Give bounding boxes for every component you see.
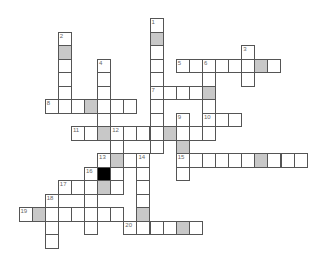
letter-cell[interactable] <box>215 113 229 128</box>
letter-cell[interactable] <box>228 153 242 168</box>
letter-cell[interactable] <box>123 99 137 114</box>
letter-cell[interactable]: 1 <box>150 18 164 33</box>
letter-cell[interactable] <box>97 72 111 87</box>
letter-cell[interactable] <box>189 221 203 236</box>
letter-cell[interactable] <box>202 99 216 114</box>
letter-cell[interactable]: 6 <box>202 59 216 74</box>
letter-cell[interactable] <box>136 167 150 182</box>
letter-cell[interactable] <box>110 167 124 182</box>
letter-cell[interactable]: 10 <box>202 113 216 128</box>
letter-cell[interactable] <box>254 153 268 168</box>
letter-cell[interactable] <box>58 72 72 87</box>
letter-cell[interactable] <box>110 180 124 195</box>
letter-cell[interactable] <box>97 126 111 141</box>
letter-cell[interactable]: 19 <box>19 207 33 222</box>
letter-cell[interactable] <box>241 153 255 168</box>
letter-cell[interactable] <box>84 221 98 236</box>
letter-cell[interactable] <box>58 207 72 222</box>
letter-cell[interactable] <box>110 153 124 168</box>
letter-cell[interactable] <box>176 126 190 141</box>
letter-cell[interactable] <box>97 113 111 128</box>
letter-cell[interactable] <box>71 99 85 114</box>
letter-cell[interactable] <box>45 207 59 222</box>
letter-cell[interactable]: 9 <box>176 113 190 128</box>
letter-cell[interactable] <box>228 59 242 74</box>
letter-cell[interactable] <box>202 153 216 168</box>
letter-cell[interactable] <box>176 167 190 182</box>
letter-cell[interactable] <box>150 221 164 236</box>
letter-cell[interactable] <box>110 207 124 222</box>
letter-cell[interactable] <box>136 194 150 209</box>
letter-cell[interactable] <box>123 153 137 168</box>
letter-cell[interactable] <box>189 126 203 141</box>
letter-cell[interactable] <box>58 86 72 101</box>
letter-cell[interactable] <box>176 221 190 236</box>
letter-cell[interactable]: 16 <box>84 167 98 182</box>
letter-cell[interactable] <box>45 234 59 249</box>
letter-cell[interactable] <box>136 180 150 195</box>
letter-cell[interactable] <box>150 45 164 60</box>
letter-cell[interactable] <box>202 86 216 101</box>
letter-cell[interactable] <box>58 99 72 114</box>
letter-cell[interactable] <box>84 99 98 114</box>
letter-cell[interactable] <box>84 194 98 209</box>
letter-cell[interactable]: 4 <box>97 59 111 74</box>
letter-cell[interactable] <box>110 140 124 155</box>
letter-cell[interactable]: 5 <box>176 59 190 74</box>
letter-cell[interactable]: 13 <box>97 153 111 168</box>
letter-cell[interactable] <box>150 126 164 141</box>
letter-cell[interactable] <box>163 221 177 236</box>
letter-cell[interactable] <box>84 180 98 195</box>
letter-cell[interactable]: 3 <box>241 45 255 60</box>
letter-cell[interactable] <box>294 153 308 168</box>
letter-cell[interactable] <box>136 126 150 141</box>
letter-cell[interactable]: 18 <box>45 194 59 209</box>
letter-cell[interactable]: 15 <box>176 153 190 168</box>
letter-cell[interactable] <box>189 153 203 168</box>
letter-cell[interactable] <box>150 140 164 155</box>
letter-cell[interactable] <box>58 59 72 74</box>
letter-cell[interactable] <box>202 126 216 141</box>
letter-cell[interactable] <box>84 207 98 222</box>
letter-cell[interactable] <box>136 207 150 222</box>
letter-cell[interactable] <box>150 113 164 128</box>
letter-cell[interactable]: 8 <box>45 99 59 114</box>
letter-cell[interactable] <box>241 59 255 74</box>
letter-cell[interactable] <box>71 180 85 195</box>
letter-cell[interactable] <box>267 59 281 74</box>
letter-cell[interactable] <box>254 59 268 74</box>
letter-cell[interactable] <box>97 180 111 195</box>
letter-cell[interactable]: 20 <box>123 221 137 236</box>
letter-cell[interactable] <box>97 86 111 101</box>
letter-cell[interactable] <box>163 86 177 101</box>
letter-cell[interactable] <box>45 221 59 236</box>
letter-cell[interactable]: 2 <box>58 32 72 47</box>
letter-cell[interactable] <box>241 72 255 87</box>
letter-cell[interactable] <box>150 99 164 114</box>
letter-cell[interactable]: 11 <box>71 126 85 141</box>
letter-cell[interactable] <box>202 72 216 87</box>
letter-cell[interactable] <box>32 207 46 222</box>
letter-cell[interactable] <box>281 153 295 168</box>
letter-cell[interactable] <box>136 221 150 236</box>
letter-cell[interactable] <box>71 207 85 222</box>
letter-cell[interactable] <box>189 86 203 101</box>
letter-cell[interactable] <box>228 113 242 128</box>
letter-cell[interactable] <box>215 59 229 74</box>
letter-cell[interactable] <box>97 99 111 114</box>
letter-cell[interactable] <box>215 153 229 168</box>
letter-cell[interactable] <box>110 99 124 114</box>
letter-cell[interactable] <box>176 86 190 101</box>
letter-cell[interactable] <box>163 126 177 141</box>
letter-cell[interactable] <box>189 59 203 74</box>
letter-cell[interactable] <box>123 126 137 141</box>
letter-cell[interactable] <box>176 140 190 155</box>
letter-cell[interactable] <box>84 126 98 141</box>
letter-cell[interactable] <box>267 153 281 168</box>
letter-cell[interactable] <box>58 45 72 60</box>
letter-cell[interactable] <box>150 72 164 87</box>
letter-cell[interactable] <box>97 207 111 222</box>
letter-cell[interactable]: 12 <box>110 126 124 141</box>
letter-cell[interactable]: 17 <box>58 180 72 195</box>
letter-cell[interactable]: 14 <box>136 153 150 168</box>
